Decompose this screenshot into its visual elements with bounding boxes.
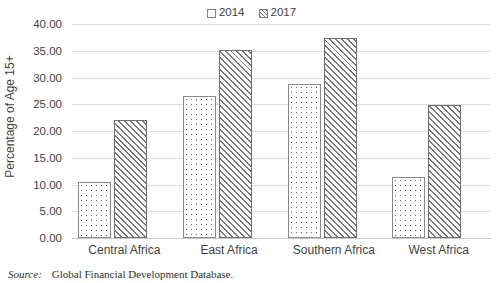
y-axis-tick-label: 20.00 — [33, 125, 62, 137]
x-axis-label-central-africa: Central Africa — [72, 243, 177, 257]
y-axis-tick-label: 30.00 — [33, 72, 62, 84]
x-axis-label-east-africa: East Africa — [177, 243, 282, 257]
x-axis-label-southern-africa: Southern Africa — [282, 243, 387, 257]
bar-group — [72, 24, 177, 238]
plot-area — [72, 24, 491, 238]
legend-item-2017: 2017 — [259, 7, 297, 19]
bar-southern-africa-2017 — [324, 38, 357, 238]
bars-layer — [72, 24, 491, 238]
y-axis-tick-labels: 40.0035.0030.0025.0020.0015.0010.005.000… — [0, 24, 66, 238]
bar-west-africa-2017 — [428, 105, 461, 238]
chart-legend: 2014 2017 — [0, 4, 503, 22]
source-text: Global Financial Development Database. — [52, 268, 233, 280]
y-axis-tick-label: 5.00 — [40, 205, 62, 217]
bar-group — [177, 24, 282, 238]
bar-southern-africa-2014 — [288, 84, 321, 238]
bar-central-africa-2017 — [114, 120, 147, 238]
bar-east-africa-2017 — [219, 50, 252, 238]
y-axis-tick-label: 0.00 — [40, 232, 62, 244]
legend-swatch-2014-icon — [207, 9, 216, 18]
bar-chart-figure: 2014 2017 Percentage of Age 15+ 40.0035.… — [0, 0, 503, 283]
legend-swatch-2017-icon — [259, 9, 268, 18]
y-axis-tick-label: 10.00 — [33, 179, 62, 191]
source-note: Source: Global Financial Development Dat… — [8, 266, 488, 282]
legend-item-2014: 2014 — [207, 7, 245, 19]
bar-group — [282, 24, 387, 238]
y-axis-tick-label: 25.00 — [33, 98, 62, 110]
legend-label-2017: 2017 — [271, 7, 297, 19]
y-axis-tick-label: 40.00 — [33, 18, 62, 30]
bar-east-africa-2014 — [183, 96, 216, 238]
x-axis-category-labels: Central AfricaEast AfricaSouthern Africa… — [72, 243, 491, 263]
y-axis-tick-label: 35.00 — [33, 45, 62, 57]
source-label: Source: — [8, 268, 42, 280]
bar-central-africa-2014 — [78, 182, 111, 238]
y-axis-tick-label: 15.00 — [33, 152, 62, 164]
bar-west-africa-2014 — [392, 177, 425, 238]
x-axis-label-west-africa: West Africa — [386, 243, 491, 257]
gridline — [72, 238, 491, 239]
bar-group — [386, 24, 491, 238]
legend-label-2014: 2014 — [219, 7, 245, 19]
